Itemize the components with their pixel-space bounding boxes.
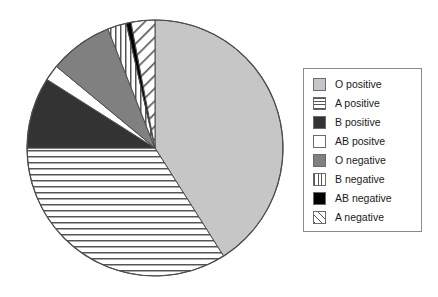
legend-item-a-negative[interactable]: A negative [304,208,421,227]
pie-chart-figure: O positive A positive B positive AB posi… [0,0,438,297]
swatch-diagonal-lines [313,211,326,224]
legend-label: B positive [335,117,381,128]
legend-label: O positive [335,79,382,90]
legend-item-b-positive[interactable]: B positive [304,113,421,132]
swatch-solid-white [313,135,326,148]
swatch-horizontal-lines [313,97,326,110]
legend-item-ab-positive[interactable]: AB positve [304,132,421,151]
swatch-solid-medium-gray [313,154,326,167]
chart-legend: O positive A positive B positive AB posi… [303,68,422,232]
swatch-solid-light-gray [313,78,326,91]
legend-item-o-positive[interactable]: O positive [304,75,421,94]
swatch-solid-dark-gray [313,116,326,129]
legend-label: O negative [335,155,386,166]
legend-label: A positive [335,98,380,109]
pie-slice-group [27,20,283,276]
legend-item-o-negative[interactable]: O negative [304,151,421,170]
legend-item-ab-negative[interactable]: AB negative [304,189,421,208]
swatch-solid-black [313,192,326,205]
legend-item-a-positive[interactable]: A positive [304,94,421,113]
legend-label: B negative [335,174,385,185]
legend-label: AB negative [335,193,392,204]
legend-item-b-negative[interactable]: B negative [304,170,421,189]
swatch-vertical-lines [313,173,326,186]
legend-label: AB positve [335,136,385,147]
legend-label: A negative [335,212,384,223]
